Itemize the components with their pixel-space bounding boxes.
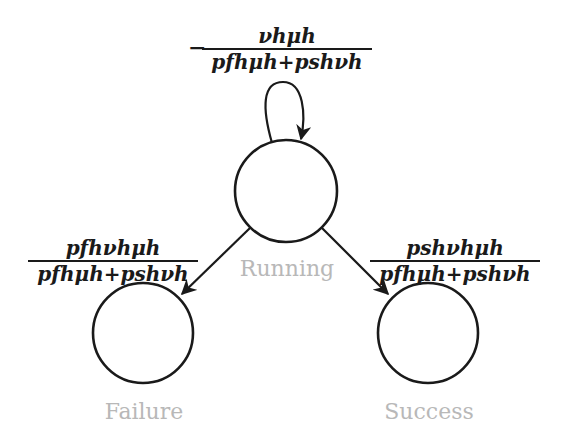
self-loop-numerator: νhμh — [255, 24, 319, 48]
self-loop-denominator: pfhμh+pshνh — [208, 50, 365, 74]
success-denominator: pfhμh+pshνh — [376, 262, 533, 286]
success-rate: pshνhμh pfhμh+pshνh — [370, 236, 540, 286]
state-success-label: Success — [384, 399, 473, 424]
failure-rate: pfhνhμh pfhμh+pshνh — [28, 236, 198, 286]
state-failure-label: Failure — [105, 399, 184, 424]
failure-numerator: pfhνhμh — [63, 236, 164, 260]
success-numerator: pshνhμh — [403, 236, 506, 260]
self-loop-arrow — [266, 82, 304, 143]
failure-denominator: pfhμh+pshνh — [34, 262, 191, 286]
state-running-node — [235, 140, 337, 242]
state-failure-node — [93, 283, 193, 383]
state-success-node — [378, 283, 478, 383]
state-running-label: Running — [240, 256, 334, 281]
self-loop-rate: νhμh pfhμh+pshνh — [202, 24, 372, 74]
